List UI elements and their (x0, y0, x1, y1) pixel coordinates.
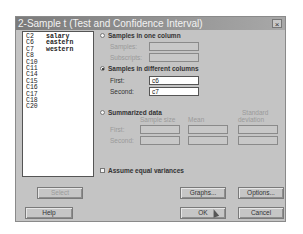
summarized-first-label: First: (110, 126, 124, 133)
summarized-second-label: Second: (110, 137, 134, 144)
second-sample-size-input[interactable] (140, 136, 180, 145)
first-column-input[interactable]: c6 (149, 76, 199, 85)
close-icon: × (275, 20, 280, 29)
first-sample-size-input[interactable] (140, 125, 180, 134)
radio-indicator-selected[interactable] (100, 66, 105, 71)
help-button[interactable]: Help (25, 207, 73, 219)
sample-size-header: Sample size (140, 116, 175, 123)
cancel-button[interactable]: Cancel (238, 207, 284, 219)
second-mean-input[interactable] (188, 136, 228, 145)
subscripts-input[interactable] (149, 53, 199, 62)
list-item[interactable]: C20 (26, 104, 93, 110)
two-sample-t-dialog: 2-Sample t (Test and Confidence Interval… (15, 16, 286, 222)
ok-button[interactable]: OK (180, 207, 226, 219)
samples-input[interactable] (149, 42, 199, 51)
first-label: First: (110, 77, 124, 84)
checkbox-indicator[interactable] (100, 168, 105, 173)
radio-indicator[interactable] (100, 110, 105, 115)
radio-samples-different-columns[interactable]: Samples in different columns (100, 65, 199, 72)
dialog-title: 2-Sample t (Test and Confidence Interval… (18, 17, 203, 30)
radio-samples-one-column[interactable]: Samples in one column (100, 32, 181, 39)
select-button[interactable]: Select (37, 187, 83, 199)
title-bar: 2-Sample t (Test and Confidence Interval… (16, 17, 285, 30)
samples-label: Samples: (110, 43, 137, 50)
radio-indicator[interactable] (100, 33, 105, 38)
first-mean-input[interactable] (188, 125, 228, 134)
std-dev-header-line2: deviation (238, 116, 264, 123)
second-label: Second: (110, 88, 134, 95)
subscripts-label: Subscripts: (110, 54, 142, 61)
close-button[interactable]: × (272, 19, 282, 28)
std-dev-header-line1: Standard (242, 109, 268, 116)
second-std-dev-input[interactable] (238, 136, 278, 145)
radio-summarized-data[interactable]: Summarized data (100, 109, 162, 116)
mean-header: Mean (188, 116, 204, 123)
options-button[interactable]: Options... (238, 187, 284, 199)
first-std-dev-input[interactable] (238, 125, 278, 134)
second-column-input[interactable]: c7 (149, 87, 199, 96)
graphs-button[interactable]: Graphs... (180, 187, 226, 199)
column-listbox[interactable]: C2salaryC6easternC7westernC8C10C11C14C15… (22, 31, 94, 177)
column-id: C20 (26, 104, 46, 110)
column-name: western (46, 47, 73, 53)
assume-equal-variances-checkbox[interactable]: Assume equal variances (100, 167, 184, 174)
